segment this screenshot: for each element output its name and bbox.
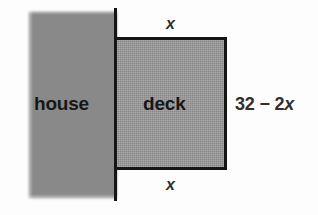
- deck-height-label: 32 − 2x: [235, 94, 294, 115]
- deck-geometry-figure: house deck 32 − 2x x x: [0, 0, 318, 215]
- deck-height-expression: 32 − 2: [235, 94, 284, 114]
- deck-label: deck: [143, 93, 186, 114]
- deck-height-variable: x: [284, 94, 294, 114]
- house-label: house: [34, 93, 89, 114]
- deck-top-width-label: x: [166, 15, 175, 33]
- deck-bottom-width-label: x: [166, 176, 175, 194]
